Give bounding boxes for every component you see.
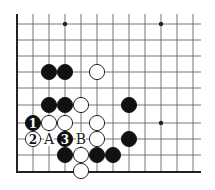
black-stone bbox=[41, 97, 56, 112]
white-stone-icon bbox=[89, 115, 104, 130]
black-stone-icon bbox=[57, 97, 72, 112]
move-number: 3 bbox=[61, 133, 69, 147]
black-stone bbox=[41, 64, 56, 79]
black-stone bbox=[57, 64, 72, 79]
white-stone bbox=[41, 115, 56, 130]
white-stone-icon bbox=[57, 115, 72, 130]
move-number: 2 bbox=[29, 133, 37, 147]
star-point-icon bbox=[159, 22, 163, 26]
white-stone-icon bbox=[73, 163, 88, 178]
white-stone bbox=[89, 131, 104, 146]
black-stone-icon bbox=[121, 97, 136, 112]
star-point-icon bbox=[159, 121, 163, 125]
move-number: 1 bbox=[29, 117, 37, 131]
black-stone: 3 bbox=[57, 131, 72, 146]
white-stone bbox=[73, 97, 88, 112]
black-stone bbox=[105, 147, 120, 162]
black-stone-icon bbox=[41, 64, 56, 79]
white-stone bbox=[89, 115, 104, 130]
white-stone: 2 bbox=[25, 131, 40, 146]
black-stone-icon bbox=[89, 147, 104, 162]
white-stone-icon bbox=[41, 115, 56, 130]
point-label-b: B bbox=[76, 131, 86, 147]
black-stone-icon bbox=[121, 131, 136, 146]
star-point-icon bbox=[63, 22, 67, 26]
white-stone-icon bbox=[89, 131, 104, 146]
black-stone-icon bbox=[57, 147, 72, 162]
black-stone bbox=[57, 147, 72, 162]
black-stone bbox=[89, 147, 104, 162]
black-stone: 1 bbox=[25, 115, 40, 130]
white-stone-icon bbox=[73, 97, 88, 112]
black-stone bbox=[121, 97, 136, 112]
black-stone-icon bbox=[41, 97, 56, 112]
white-stone bbox=[89, 64, 104, 79]
point-label-a: A bbox=[43, 131, 55, 147]
white-stone bbox=[57, 115, 72, 130]
black-stone bbox=[57, 97, 72, 112]
white-stone bbox=[73, 147, 88, 162]
white-stone-icon bbox=[73, 147, 88, 162]
white-stone-icon bbox=[89, 64, 104, 79]
black-stone-icon bbox=[57, 64, 72, 79]
black-stone bbox=[121, 131, 136, 146]
black-stone-icon bbox=[105, 147, 120, 162]
white-stone bbox=[73, 163, 88, 178]
go-board-diagram: 123 AB bbox=[0, 0, 215, 190]
